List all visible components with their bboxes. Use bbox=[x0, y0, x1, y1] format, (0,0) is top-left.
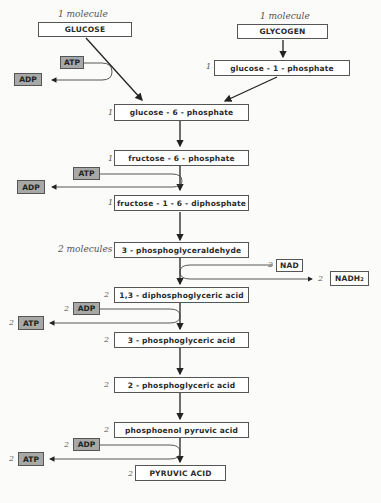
glycogen-box: GLYCOGEN bbox=[237, 24, 328, 39]
pyruvate-count: 2 bbox=[128, 469, 133, 478]
g1p-box: glucose - 1 - phosphate bbox=[214, 60, 350, 76]
adp-box-1: ADP bbox=[14, 73, 42, 86]
3pga-box: 3 - phosphoglyceric acid bbox=[114, 332, 249, 348]
f6p-count: 1 bbox=[108, 154, 113, 163]
nad-box: NAD bbox=[276, 259, 303, 272]
adp3-count: 2 bbox=[64, 304, 69, 313]
pyruvate-box: PYRUVIC ACID bbox=[135, 465, 226, 481]
2pga-box: 2 - phosphoglyceric acid bbox=[114, 377, 249, 393]
atp-box-4: ATP bbox=[18, 452, 44, 466]
pgal-box: 3 - phosphoglyceraldehyde bbox=[114, 242, 249, 258]
glucose-box: GLUCOSE bbox=[38, 22, 132, 37]
adp-box-2: ADP bbox=[17, 180, 45, 194]
g6p-box: glucose - 6 - phosphate bbox=[114, 104, 249, 121]
atp-box-1: ATP bbox=[60, 56, 84, 69]
g1p-count: 1 bbox=[206, 62, 211, 71]
pep-count: 2 bbox=[104, 425, 109, 434]
pep-box: phosphoenol pyruvic acid bbox=[114, 422, 249, 438]
f16dp-box: fructose - 1 - 6 - diphosphate bbox=[114, 195, 249, 211]
2pga-count: 2 bbox=[104, 380, 109, 389]
atp4-count: 2 bbox=[9, 454, 14, 463]
f16dp-count: 1 bbox=[108, 198, 113, 207]
nadh2-box: NADH2 bbox=[330, 271, 369, 286]
glucose-count-label: 1 molecule bbox=[58, 9, 108, 19]
atp-box-3: ATP bbox=[18, 316, 44, 330]
f6p-box: fructose - 6 - phosphate bbox=[114, 150, 249, 166]
glycogen-count-label: 1 molecule bbox=[260, 11, 310, 21]
atp-box-2: ATP bbox=[73, 167, 100, 180]
dpga-box: 1,3 - diphosphoglyceric acid bbox=[114, 287, 249, 303]
adp-box-3: ADP bbox=[73, 302, 100, 315]
nad-count: 2 bbox=[268, 260, 273, 269]
adp4-count: 2 bbox=[64, 440, 69, 449]
3pga-count: 2 bbox=[104, 335, 109, 344]
atp3-count: 2 bbox=[9, 318, 14, 327]
adp-box-4: ADP bbox=[73, 438, 100, 451]
nadh-label: NADH bbox=[335, 274, 360, 283]
pgal-count: 2 molecules bbox=[58, 244, 112, 254]
nadh2-count: 2 bbox=[318, 274, 323, 283]
dpga-count: 2 bbox=[104, 290, 109, 299]
nadh-subscript: 2 bbox=[360, 276, 364, 282]
g6p-count: 1 bbox=[108, 108, 113, 117]
